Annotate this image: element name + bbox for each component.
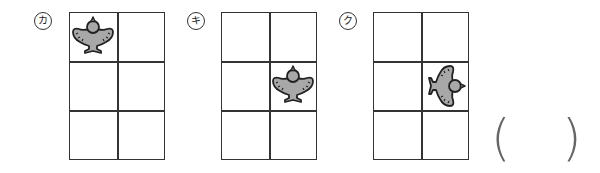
panel-label-ku: ク (339, 12, 357, 30)
grid-ka (69, 12, 165, 160)
grid-ku (373, 12, 469, 160)
grid-ki (221, 12, 317, 160)
grid-divider (374, 110, 468, 112)
grid-divider (117, 13, 119, 159)
grid-divider (70, 110, 164, 112)
panel-label-ka: カ (34, 12, 52, 30)
grid-divider (222, 110, 316, 112)
panel-label-ki: キ (187, 12, 205, 30)
answer-close-paren: ) (562, 110, 582, 166)
bird-icon-rotated (423, 64, 467, 108)
grid-divider (70, 61, 164, 63)
grid-divider (374, 61, 468, 63)
grid-divider (222, 61, 316, 63)
bird-icon (271, 64, 315, 108)
bird-icon (71, 15, 115, 59)
answer-blank[interactable] (508, 114, 564, 162)
